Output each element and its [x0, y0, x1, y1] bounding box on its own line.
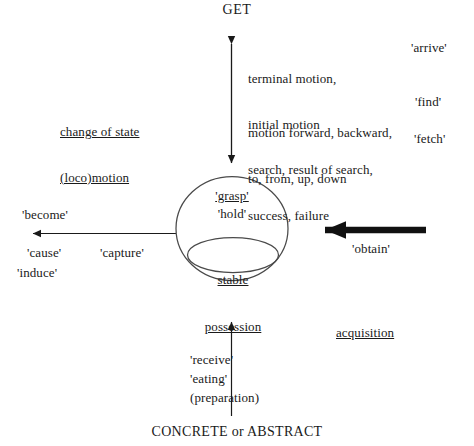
- right-word-obtain: 'obtain': [352, 241, 390, 256]
- core-word-grasp: 'grasp': [215, 188, 249, 203]
- group-label-locomotion-line-1: change of state: [60, 124, 139, 139]
- top-row-3-description: search, result of search, success, failu…: [248, 131, 373, 254]
- core-inner-label-line-1: stable: [205, 272, 262, 288]
- core-inner-label: stable possession: [205, 240, 262, 367]
- group-label-locomotion: change of state (loco)motion: [60, 93, 139, 216]
- top-row-2-word: 'find': [415, 94, 441, 109]
- top-row-3-description-line-2: success, failure: [248, 208, 373, 223]
- diagram-title: GET: [222, 2, 251, 19]
- diagram-vector-layer: [0, 0, 474, 446]
- core-inner-label-line-2: possession: [205, 319, 262, 335]
- group-label-locomotion-line-2: (loco)motion: [60, 170, 139, 185]
- top-row-3-word: 'fetch': [414, 131, 445, 146]
- top-row-1-description-line-1: terminal motion,: [248, 71, 336, 86]
- bottom-word-preparation: (preparation): [190, 390, 259, 405]
- left-word-capture: 'capture': [100, 245, 144, 260]
- core-word-hold: 'hold': [218, 206, 246, 221]
- top-row-1-word: 'arrive': [411, 40, 447, 55]
- bottom-word-eating: 'eating': [190, 371, 227, 386]
- top-row-3-description-line-1: search, result of search,: [248, 162, 373, 177]
- bottom-word-receive: 'receive': [190, 352, 233, 367]
- left-word-cause: 'cause': [27, 245, 61, 260]
- left-word-become: 'become': [22, 207, 68, 222]
- group-label-acquisition: acquisition: [336, 325, 394, 340]
- left-word-induce: 'induce': [17, 265, 57, 280]
- get-semantic-field-diagram: GET CONCRETE or ABSTRACT terminal motion…: [0, 0, 474, 446]
- diagram-bottom-caption: CONCRETE or ABSTRACT: [152, 424, 323, 441]
